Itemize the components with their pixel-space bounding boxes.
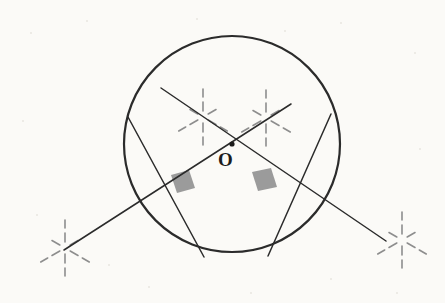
center-label-O: O xyxy=(218,150,233,169)
secant-upper-left-to-lower-right xyxy=(161,88,386,241)
construction-ray xyxy=(52,251,60,256)
starburst-upper-right xyxy=(242,90,290,146)
construction-ray xyxy=(82,258,89,262)
construction-ray xyxy=(70,251,78,256)
construction-ray xyxy=(389,233,397,238)
construction-ray xyxy=(190,120,198,125)
construction-ray xyxy=(208,110,216,115)
center-point-dot xyxy=(229,141,234,146)
right-chord xyxy=(268,114,331,256)
construction-ray xyxy=(283,128,290,132)
construction-ray xyxy=(41,258,48,262)
construction-ray xyxy=(407,233,415,238)
construction-ray xyxy=(179,127,186,131)
right-right-angle-mark xyxy=(252,168,277,191)
starburst-lower-left xyxy=(41,220,89,276)
construction-ray xyxy=(271,121,279,126)
construction-ray xyxy=(378,250,385,254)
construction-ray xyxy=(253,111,261,116)
construction-ray xyxy=(389,243,397,248)
construction-ray xyxy=(419,250,426,254)
construction-ray xyxy=(407,243,415,248)
construction-ray xyxy=(52,241,60,246)
center-point-layer xyxy=(229,141,234,146)
construction-marks-layer xyxy=(41,89,426,276)
diagram-canvas: O xyxy=(0,0,445,303)
